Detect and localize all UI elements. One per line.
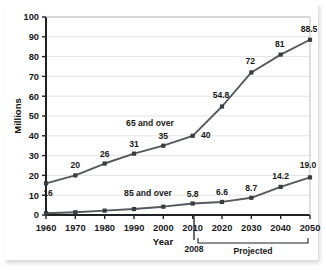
data-point-label: 14.2 xyxy=(272,171,289,181)
data-point-marker xyxy=(308,175,312,179)
data-point-marker xyxy=(103,209,107,213)
data-point-marker xyxy=(161,205,165,209)
data-point-label: 26 xyxy=(100,149,110,159)
series-label-85-and-over: 85 and over xyxy=(124,188,172,198)
y-tick-label: 30 xyxy=(29,151,39,161)
data-point-marker xyxy=(279,185,283,189)
data-point-label: 5.8 xyxy=(187,189,199,199)
y-tick-label: 80 xyxy=(29,52,39,62)
data-point-marker xyxy=(308,38,312,42)
y-tick-label: 0 xyxy=(34,210,39,220)
x-tick-label: 2050 xyxy=(300,223,321,233)
projected-bracket-label: Projected xyxy=(233,246,272,256)
x-tick-label: 2010 xyxy=(182,223,203,233)
data-point-marker xyxy=(220,200,224,204)
x-tick-label: 1990 xyxy=(124,223,145,233)
x-tick-label: 1970 xyxy=(65,223,86,233)
data-point-label: 20 xyxy=(71,160,81,170)
data-point-label: 72 xyxy=(246,56,256,66)
data-point-label: 19.0 xyxy=(300,160,317,170)
y-tick-label: 100 xyxy=(23,12,39,22)
y-tick-label: 70 xyxy=(29,72,39,82)
data-point-marker xyxy=(132,207,136,211)
y-tick-label: 40 xyxy=(29,131,39,141)
y-tick-label: 90 xyxy=(29,32,39,42)
data-point-marker xyxy=(191,201,195,205)
data-point-label: 40 xyxy=(201,130,211,140)
data-point-label: 8.7 xyxy=(245,183,257,193)
projected-bracket xyxy=(198,238,308,243)
series-label-65-and-over: 65 and over xyxy=(126,118,174,128)
data-point-marker xyxy=(73,173,77,177)
y-tick-label: 60 xyxy=(29,92,39,102)
data-point-marker xyxy=(161,144,165,148)
x-tick-label: 2030 xyxy=(241,223,262,233)
data-point-label: 35 xyxy=(159,131,169,141)
data-point-label: 88.5 xyxy=(301,24,318,34)
y-tick-label: 50 xyxy=(29,111,39,121)
figure-container: 0102030405060708090100 19601970198019902… xyxy=(0,0,326,270)
y-axis-title: Millions xyxy=(12,98,23,134)
x-tick-label: 2000 xyxy=(153,223,174,233)
data-point-marker xyxy=(249,70,253,74)
data-point-label: 54.8 xyxy=(213,90,230,100)
x-axis-title: Year xyxy=(153,236,174,247)
y-tick-label: 20 xyxy=(29,171,39,181)
population-projection-line-chart: 0102030405060708090100 19601970198019902… xyxy=(0,0,326,270)
data-point-marker xyxy=(103,161,107,165)
x-tick-label: 1960 xyxy=(36,223,57,233)
x-tick-label: 2020 xyxy=(212,223,233,233)
data-point-marker xyxy=(249,196,253,200)
chart-plot-area: 0102030405060708090100 19601970198019902… xyxy=(0,0,326,270)
y-tick-label: 10 xyxy=(29,191,39,201)
data-point-marker xyxy=(44,211,48,215)
data-point-marker xyxy=(220,104,224,108)
x-tick-label: 1980 xyxy=(94,223,115,233)
x-axis: 1960197019801990200020102020203020402050 xyxy=(36,215,321,233)
data-point-marker xyxy=(73,210,77,214)
data-point-marker xyxy=(44,181,48,185)
projection-divider-year-label: 2008 xyxy=(184,244,203,254)
data-point-marker xyxy=(132,152,136,156)
data-point-label: 81 xyxy=(275,39,285,49)
x-tick-label: 2040 xyxy=(270,223,291,233)
data-point-label: 31 xyxy=(129,139,139,149)
data-point-marker xyxy=(279,53,283,57)
data-point-label: 6.6 xyxy=(216,187,228,197)
data-point-label: 16 xyxy=(43,188,53,198)
data-point-marker xyxy=(191,134,195,138)
